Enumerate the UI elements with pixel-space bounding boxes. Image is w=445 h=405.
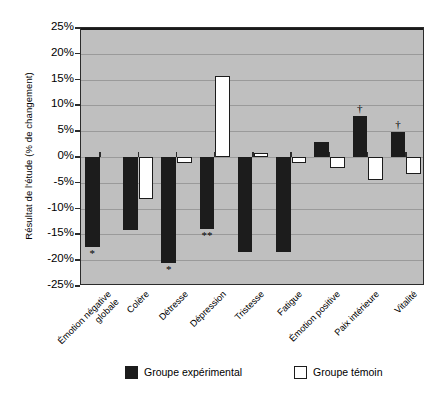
x-axis-tick-mark bbox=[367, 152, 369, 157]
bar bbox=[314, 142, 329, 157]
x-axis-tick-mark bbox=[329, 152, 331, 157]
bar bbox=[161, 157, 176, 263]
plot-area: ****†† bbox=[80, 27, 424, 285]
bar bbox=[177, 157, 192, 163]
legend-label-control: Groupe témoin bbox=[313, 366, 382, 378]
legend-swatch-filled-black-square bbox=[125, 366, 138, 379]
x-axis-tick-mark bbox=[290, 152, 292, 157]
legend-item-control: Groupe témoin bbox=[294, 366, 382, 379]
bar bbox=[139, 157, 154, 199]
x-axis-tick-mark bbox=[176, 152, 178, 157]
bar bbox=[276, 157, 291, 252]
bar bbox=[330, 157, 345, 168]
bar bbox=[200, 157, 215, 229]
x-axis-tick-mark bbox=[214, 152, 216, 157]
zero-baseline bbox=[81, 28, 423, 30]
significance-marker: * bbox=[157, 264, 180, 275]
significance-marker: * bbox=[81, 248, 104, 259]
x-axis-tick-mark bbox=[252, 152, 254, 157]
bar bbox=[292, 157, 307, 163]
x-axis-tick-mark bbox=[138, 152, 140, 157]
significance-marker: ** bbox=[196, 230, 219, 241]
bar-chart-figure: Résultat de l'étude (% de changement) 25… bbox=[0, 0, 445, 405]
x-axis-tick-mark bbox=[405, 152, 407, 157]
bar bbox=[238, 157, 253, 252]
bar bbox=[406, 157, 421, 174]
chart-legend: Groupe expérimental Groupe témoin bbox=[125, 362, 415, 382]
bar bbox=[254, 153, 269, 157]
significance-marker: † bbox=[349, 103, 372, 114]
legend-label-experimental: Groupe expérimental bbox=[144, 366, 242, 378]
bar bbox=[215, 76, 230, 157]
legend-item-experimental: Groupe expérimental bbox=[125, 366, 242, 379]
bar bbox=[391, 132, 406, 157]
significance-marker: † bbox=[387, 119, 410, 130]
bar bbox=[85, 157, 100, 247]
bar bbox=[353, 116, 368, 157]
bar bbox=[368, 157, 383, 180]
x-axis-tick-mark bbox=[99, 152, 101, 157]
bar bbox=[123, 157, 138, 230]
legend-swatch-outlined-white-square bbox=[294, 366, 307, 379]
